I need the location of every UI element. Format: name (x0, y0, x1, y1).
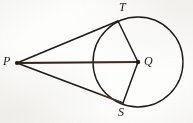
point-label-s: S (118, 106, 124, 118)
tangent-accent-ps (100, 94, 123, 103)
tangent-segment-pt (17, 21, 118, 63)
geometry-canvas (0, 0, 193, 123)
radius-segment-qt (118, 21, 138, 62)
point-label-q: Q (144, 55, 153, 67)
radius-segment-qs (123, 62, 138, 103)
point-label-t: T (119, 1, 126, 13)
point-label-p: P (3, 55, 10, 67)
geometry-figure: P Q T S (0, 0, 193, 123)
point-marker-p (15, 61, 19, 65)
point-marker-q (136, 60, 140, 64)
